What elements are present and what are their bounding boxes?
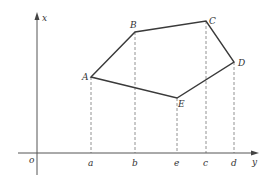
foot-label-a: a — [88, 158, 93, 168]
foot-label-e: e — [174, 158, 179, 168]
vertical-axis-label: x — [42, 13, 47, 23]
foot-label-c: c — [203, 158, 208, 168]
foot-label-d: d — [231, 158, 237, 168]
vertex-label-c: C — [209, 16, 216, 26]
vertex-label-d: D — [237, 58, 245, 68]
vertex-label-a: A — [81, 72, 89, 82]
projection-lines — [91, 21, 234, 153]
polygon-abcde — [91, 21, 234, 98]
horizontal-axis-label: y — [251, 157, 258, 167]
foot-label-b: b — [132, 158, 138, 168]
vertex-label-e: E — [177, 99, 185, 109]
horizontal-axis-arrow-icon — [251, 151, 259, 156]
vertical-axis-arrow-icon — [35, 12, 40, 20]
origin-label: o — [29, 155, 35, 165]
vertex-label-b: B — [129, 20, 137, 30]
polygon-projection-diagram: x y o A B C D E a b e c d — [0, 0, 271, 181]
